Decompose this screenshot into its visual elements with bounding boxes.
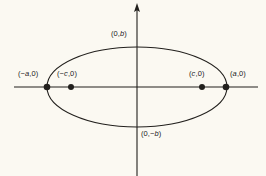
label-co-vertex-bottom: (0,−b) bbox=[141, 130, 161, 138]
point-dot-focus-left bbox=[68, 84, 74, 90]
label-focus-right: (c,0) bbox=[189, 70, 205, 78]
label-co-vertex-top: (0,b) bbox=[111, 30, 127, 38]
label-vertex-left: (−a,0) bbox=[18, 70, 38, 78]
point-dot-focus-right bbox=[199, 84, 205, 90]
ellipse-diagram: (−a,0) (−c,0) (c,0) (a,0) (0,b) (0,−b) bbox=[0, 0, 266, 176]
label-vertex-right: (a,0) bbox=[230, 70, 246, 78]
point-dot-vertex-right bbox=[223, 84, 230, 91]
point-dot-vertex-left bbox=[44, 84, 51, 91]
label-focus-left: (−c,0) bbox=[57, 70, 77, 78]
diagram-canvas bbox=[0, 0, 266, 176]
